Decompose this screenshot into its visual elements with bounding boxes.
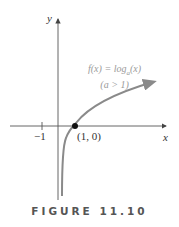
y-axis-label: y bbox=[47, 12, 52, 24]
figure-caption: FIGURE 11.10 bbox=[0, 205, 179, 217]
log-curve bbox=[62, 82, 153, 196]
point-1-0 bbox=[72, 123, 78, 129]
function-condition: (a > 1) bbox=[100, 79, 128, 90]
function-name: f(x) = log bbox=[88, 63, 126, 74]
function-arg: (x) bbox=[130, 63, 141, 74]
x-tick-label-minus-one: −1 bbox=[34, 130, 46, 142]
log-function-plot bbox=[0, 0, 179, 227]
x-axis-label: x bbox=[163, 131, 168, 143]
function-label: f(x) = loga(x) (a > 1) bbox=[88, 63, 141, 90]
point-label: (1, 0) bbox=[77, 130, 101, 142]
